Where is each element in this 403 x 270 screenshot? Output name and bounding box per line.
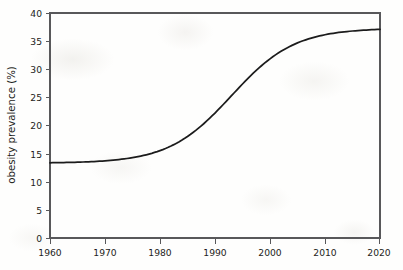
x-tick-label: 2010: [313, 247, 337, 258]
y-axis-title: obesity prevalence (%): [6, 66, 17, 184]
y-tick-label: 5: [36, 205, 42, 216]
x-tick-label: 1990: [203, 247, 227, 258]
y-tick-label: 25: [30, 92, 42, 103]
chart-figure: 0 5 10 15 20 25 30 35 40 1960 1970 1980 …: [0, 0, 403, 270]
x-axis-tick-labels: 1960 1970 1980 1990 2000 2010 2020: [38, 247, 391, 258]
line-chart: 0 5 10 15 20 25 30 35 40 1960 1970 1980 …: [0, 0, 403, 270]
y-tick-label: 40: [30, 8, 42, 19]
x-axis-ticks: [51, 239, 380, 244]
y-tick-label: 15: [30, 149, 42, 160]
x-tick-label: 1980: [148, 247, 172, 258]
y-tick-label: 20: [30, 120, 42, 131]
x-tick-label: 2020: [367, 247, 391, 258]
x-tick-label: 2000: [258, 247, 282, 258]
y-axis-tick-labels: 0 5 10 15 20 25 30 35 40: [30, 8, 42, 244]
y-tick-label: 0: [36, 233, 42, 244]
x-tick-label: 1960: [38, 247, 62, 258]
x-tick-label: 1970: [93, 247, 117, 258]
plot-frame: [50, 13, 380, 238]
y-tick-label: 10: [30, 177, 42, 188]
y-tick-label: 30: [30, 64, 42, 75]
obesity-prevalence-line: [50, 29, 380, 162]
y-tick-label: 35: [30, 36, 42, 47]
